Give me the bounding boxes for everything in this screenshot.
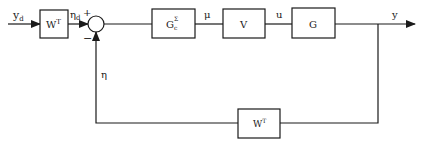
label-y: y [391,9,398,20]
label-u: u [276,9,283,20]
label-plus: + [83,7,91,18]
block-gc-label: G [166,19,174,30]
feedback-right-line [280,24,378,123]
feedback-left-line [96,32,238,123]
block-g-label: G [309,19,317,30]
label-yd: yd [12,9,24,23]
summing-junction [88,16,104,32]
label-mu: μ [204,9,211,20]
block-gc-sup: Σ [174,15,178,22]
block-v-label: V [239,19,248,30]
label-eta: η [101,69,107,80]
label-etad: ηd [70,9,81,22]
label-minus: − [83,32,92,45]
block-diagram: yd WT ηd + − G Σ c μ V u G y WT η [0,0,429,148]
